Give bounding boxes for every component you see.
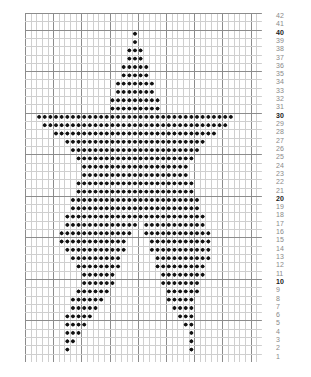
- row-number-label: 28: [276, 128, 296, 136]
- row-number-label: 24: [276, 162, 296, 170]
- row-number-label: 22: [276, 178, 296, 186]
- row-number-label: 31: [276, 103, 296, 111]
- row-number-label: 16: [276, 228, 296, 236]
- star-stitch-chart: 4241403938373635343332313029282726252423…: [0, 0, 311, 377]
- grid-canvas[interactable]: [25, 13, 262, 362]
- row-number-label: 37: [276, 54, 296, 62]
- row-number-label: 10: [276, 278, 296, 286]
- row-number-label: 12: [276, 261, 296, 269]
- row-number-axis: 4241403938373635343332313029282726252423…: [276, 13, 306, 362]
- row-number-label: 20: [276, 195, 296, 203]
- row-number-label: 36: [276, 62, 296, 70]
- row-number-label: 17: [276, 220, 296, 228]
- row-number-label: 30: [276, 112, 296, 120]
- row-number-label: 11: [276, 270, 296, 278]
- row-number-label: 15: [276, 236, 296, 244]
- row-number-label: 40: [276, 29, 296, 37]
- row-number-label: 33: [276, 87, 296, 95]
- row-number-label: 8: [276, 295, 296, 303]
- row-number-label: 6: [276, 311, 296, 319]
- row-number-label: 19: [276, 203, 296, 211]
- row-number-label: 26: [276, 145, 296, 153]
- row-number-label: 27: [276, 137, 296, 145]
- row-number-label: 35: [276, 70, 296, 78]
- row-number-label: 23: [276, 170, 296, 178]
- row-number-label: 3: [276, 336, 296, 344]
- row-number-label: 39: [276, 37, 296, 45]
- chart-grid[interactable]: [25, 13, 262, 362]
- row-number-label: 34: [276, 78, 296, 86]
- row-number-label: 4: [276, 328, 296, 336]
- row-number-label: 21: [276, 187, 296, 195]
- row-number-label: 29: [276, 120, 296, 128]
- row-number-label: 7: [276, 303, 296, 311]
- row-number-label: 5: [276, 319, 296, 327]
- row-number-label: 41: [276, 20, 296, 28]
- row-number-label: 2: [276, 344, 296, 352]
- row-number-label: 25: [276, 153, 296, 161]
- row-number-label: 9: [276, 286, 296, 294]
- row-number-label: 18: [276, 211, 296, 219]
- row-number-label: 14: [276, 245, 296, 253]
- row-number-label: 42: [276, 12, 296, 20]
- row-number-label: 38: [276, 45, 296, 53]
- row-number-label: 1: [276, 353, 296, 361]
- row-number-label: 32: [276, 95, 296, 103]
- row-number-label: 13: [276, 253, 296, 261]
